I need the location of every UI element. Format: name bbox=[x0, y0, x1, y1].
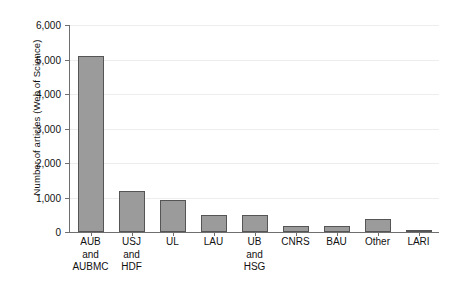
y-tick-mark bbox=[65, 60, 69, 61]
x-tick-label-line: AUBMC bbox=[72, 261, 108, 274]
x-tick-label-line: and bbox=[244, 249, 266, 262]
x-tick-label-line: UB bbox=[244, 236, 266, 249]
y-tick-label: 3,000 bbox=[36, 123, 61, 134]
x-tick-label: UBandHSG bbox=[244, 236, 266, 274]
y-tick-label: 4,000 bbox=[36, 89, 61, 100]
y-tick-mark bbox=[65, 94, 69, 95]
y-tick-label: 2,000 bbox=[36, 158, 61, 169]
x-tick-label-line: CNRS bbox=[281, 236, 309, 249]
bar-group: BAU bbox=[316, 25, 357, 232]
bar bbox=[160, 200, 186, 232]
x-tick-label: AUBandAUBMC bbox=[72, 236, 108, 274]
bar bbox=[365, 219, 391, 232]
x-tick-label-line: UL bbox=[166, 236, 179, 249]
x-tick-label-line: HDF bbox=[121, 261, 142, 274]
y-tick-mark bbox=[65, 198, 69, 199]
y-tick-mark bbox=[65, 129, 69, 130]
x-tick-label-line: and bbox=[121, 249, 142, 262]
bar-group: LARI bbox=[398, 25, 439, 232]
y-tick-label: 0 bbox=[55, 227, 61, 238]
y-tick-mark bbox=[65, 163, 69, 164]
y-tick-label: 5,000 bbox=[36, 54, 61, 65]
x-tick-label: Other bbox=[365, 236, 390, 249]
y-tick-mark bbox=[65, 232, 69, 233]
x-tick-label: UL bbox=[166, 236, 179, 249]
y-tick-mark bbox=[65, 25, 69, 26]
plot-area: 01,0002,0003,0004,0005,0006,000 AUBandAU… bbox=[69, 25, 439, 232]
x-tick-label: CNRS bbox=[281, 236, 309, 249]
bar bbox=[201, 215, 227, 232]
bar-group: UBandHSG bbox=[234, 25, 275, 232]
bar bbox=[78, 56, 104, 232]
bar-group: USJandHDF bbox=[111, 25, 152, 232]
x-tick-label: LARI bbox=[407, 236, 429, 249]
bar-group: UL bbox=[152, 25, 193, 232]
x-tick-label-line: LARI bbox=[407, 236, 429, 249]
bar-group: Other bbox=[357, 25, 398, 232]
bar bbox=[242, 215, 268, 232]
x-tick-label-line: and bbox=[72, 249, 108, 262]
x-tick-label-line: HSG bbox=[244, 261, 266, 274]
bar-group: LAU bbox=[193, 25, 234, 232]
y-tick-label: 6,000 bbox=[36, 20, 61, 31]
x-tick-label-line: LAU bbox=[204, 236, 223, 249]
x-tick-label: LAU bbox=[204, 236, 223, 249]
x-tick-label: BAU bbox=[326, 236, 347, 249]
bar-chart: Number of articles (Web of Science) 01,0… bbox=[0, 0, 455, 296]
x-tick-label-line: AUB bbox=[72, 236, 108, 249]
bar-group: AUBandAUBMC bbox=[70, 25, 111, 232]
y-tick-label: 1,000 bbox=[36, 192, 61, 203]
x-tick-label-line: Other bbox=[365, 236, 390, 249]
bar-series: AUBandAUBMCUSJandHDFULLAUUBandHSGCNRSBAU… bbox=[70, 25, 439, 232]
x-tick-label: USJandHDF bbox=[121, 236, 142, 274]
x-tick-label-line: BAU bbox=[326, 236, 347, 249]
bar-group: CNRS bbox=[275, 25, 316, 232]
bar bbox=[119, 191, 145, 232]
x-tick-label-line: USJ bbox=[121, 236, 142, 249]
